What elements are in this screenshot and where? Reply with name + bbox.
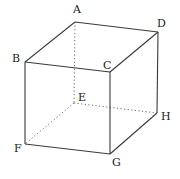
edge-AE	[74, 22, 75, 103]
hidden-edges	[25, 22, 157, 144]
edge-AB	[25, 22, 75, 62]
vertex-label-e: E	[78, 91, 86, 104]
vertex-labels: A D B C E H F G	[12, 3, 171, 169]
vertex-label-a: A	[72, 3, 82, 16]
vertex-label-g: G	[112, 156, 121, 169]
edge-EH	[74, 103, 157, 113]
vertex-label-d: D	[157, 17, 166, 30]
vertex-label-f: F	[14, 142, 22, 155]
edge-FG	[25, 144, 110, 154]
vertex-label-h: H	[161, 110, 171, 123]
cube-diagram: A D B C E H F G	[0, 0, 180, 179]
edge-DH	[157, 32, 158, 113]
edge-AD	[75, 22, 158, 32]
edge-EF	[25, 103, 74, 144]
visible-edges	[25, 22, 158, 154]
edge-GH	[110, 113, 157, 154]
vertex-label-c: C	[103, 59, 111, 72]
vertex-label-b: B	[12, 52, 20, 65]
edge-CD	[110, 32, 158, 72]
edge-BC	[25, 62, 110, 72]
